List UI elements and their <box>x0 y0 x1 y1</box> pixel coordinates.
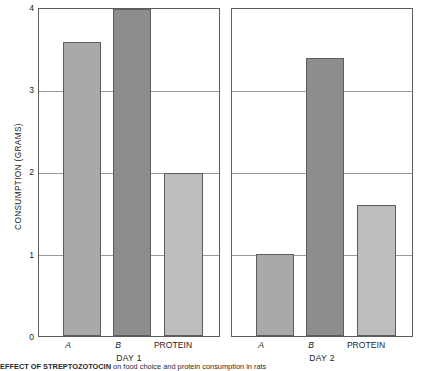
x-tick-day2-b: B <box>295 340 327 350</box>
x-tick-day2-a: A <box>245 340 277 350</box>
bar-day2-a[interactable] <box>256 254 294 336</box>
bar-day1-b[interactable] <box>113 9 151 336</box>
bar-day1-a[interactable] <box>63 42 101 336</box>
x-tick-day1-a: A <box>52 340 84 350</box>
bar-day2-protein[interactable] <box>357 205 396 336</box>
figure-container: CONSUMPTION (GRAMS) 4 3 2 1 0 A B PROTEI… <box>0 0 424 371</box>
y-tick-label-0: 0 <box>18 332 34 342</box>
figure-caption: EFFECT OF STREPTOZOTOCIN on food choice … <box>0 363 424 371</box>
plot-area-day-1 <box>39 9 219 336</box>
panel-day-1 <box>38 8 220 337</box>
y-tick-label-3: 3 <box>18 85 34 95</box>
x-tick-day1-protein: PROTEIN <box>134 340 212 350</box>
x-tick-day2-protein: PROTEIN <box>327 340 405 350</box>
panel-caption-day-1: DAY 1 <box>38 353 220 363</box>
panel-caption-day-2: DAY 2 <box>231 353 413 363</box>
panel-day-2 <box>231 8 413 337</box>
figure-caption-rest: on food choice and protein consumption i… <box>111 363 266 371</box>
plot-area-day-2 <box>232 9 412 336</box>
y-tick-label-1: 1 <box>18 250 34 260</box>
y-tick-label-2: 2 <box>18 167 34 177</box>
x-tick-day1-b: B <box>102 340 134 350</box>
bar-day1-protein[interactable] <box>164 173 203 337</box>
figure-caption-lead: EFFECT OF STREPTOZOTOCIN <box>0 363 111 371</box>
bar-day2-b[interactable] <box>306 58 344 336</box>
y-tick-label-4: 4 <box>18 3 34 13</box>
